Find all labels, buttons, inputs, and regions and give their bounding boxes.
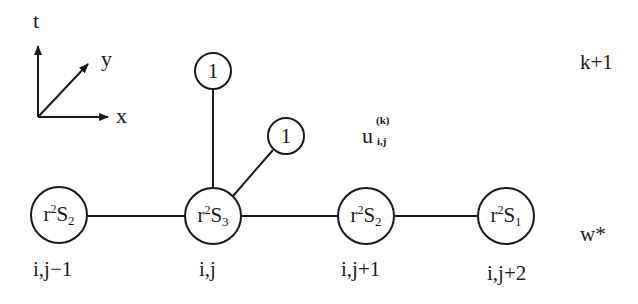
x-axis-label: x	[116, 103, 127, 129]
symbol: S	[503, 203, 515, 227]
index-label-i-jp2: i,j+2	[487, 261, 526, 286]
t-axis-label: t	[33, 8, 39, 34]
symbol-index: 1	[515, 214, 522, 229]
symbol: S	[363, 203, 375, 227]
edge-j-up-diagonal	[233, 150, 273, 196]
y-axis-label: y	[101, 46, 112, 72]
node-value-up-diagonal: 1	[281, 124, 292, 149]
coef: r	[43, 202, 50, 226]
index-label-i-j: i,j	[199, 257, 216, 282]
stencil-diagram: t x y k+1 w* u (k) i,j 1 1 r2S2 r2S3 r2S…	[0, 0, 638, 304]
level-label-upper: k+1	[580, 50, 613, 75]
center-value-label: u (k) i,j	[362, 123, 373, 149]
coef: r	[490, 203, 497, 227]
symbol-index: 3	[222, 214, 229, 229]
symbol-index: 2	[68, 213, 75, 228]
y-axis-arrow	[38, 64, 88, 117]
node-value-up-vertical: 1	[208, 59, 219, 84]
node-label-i-jp2: r2S1	[490, 203, 521, 230]
axes-icon	[38, 46, 108, 117]
node-label-i-jm1: r2S2	[43, 202, 74, 229]
coef: r	[197, 203, 204, 227]
index-label-i-jp1: i,j+1	[341, 257, 380, 282]
level-label-lower: w*	[580, 222, 606, 247]
index-label-i-jm1: i,j−1	[33, 257, 72, 282]
center-value-superscript: (k)	[376, 114, 389, 126]
node-label-i-jp1: r2S2	[350, 203, 381, 230]
diagram-graphics	[0, 0, 638, 304]
coef: r	[350, 203, 357, 227]
center-value-subscript: i,j	[377, 135, 386, 147]
symbol: S	[210, 203, 222, 227]
symbol-index: 2	[375, 214, 382, 229]
node-label-i-j: r2S3	[197, 203, 228, 230]
symbol: S	[56, 202, 68, 226]
center-value-base: u	[362, 123, 373, 148]
